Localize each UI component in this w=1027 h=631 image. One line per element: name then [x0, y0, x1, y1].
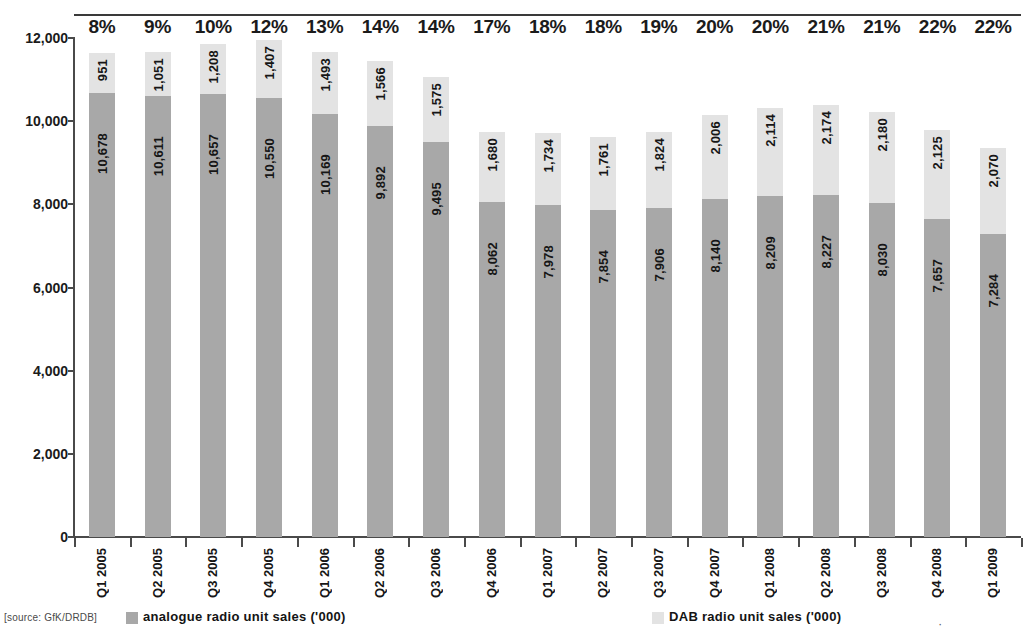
dab-share-label: 12% — [241, 16, 297, 38]
bar-value-label-dab: 1,051 — [151, 58, 164, 92]
bar-value-label-analogue: 9,892 — [374, 166, 387, 200]
bar-group[interactable]: 1,20810,657 — [200, 44, 226, 537]
bar-segment-analogue[interactable]: 8,227 — [813, 195, 839, 537]
bar-value-label-dab: 1,824 — [652, 138, 665, 172]
bar-group[interactable]: 2,0707,284 — [980, 148, 1006, 537]
bar-segment-analogue[interactable]: 7,657 — [924, 219, 950, 537]
bar-segment-dab[interactable]: 1,566 — [367, 61, 393, 126]
bar-segment-dab[interactable]: 951 — [89, 53, 115, 93]
bar-segment-analogue[interactable]: 7,284 — [980, 234, 1006, 537]
x-axis-tick-label: Q3 2007 — [652, 548, 665, 598]
bar-segment-dab[interactable]: 1,051 — [145, 52, 171, 96]
y-axis-tick-label: 12,000 — [25, 30, 68, 46]
legend-swatch-analogue — [126, 612, 138, 624]
bar-value-label-analogue: 8,140 — [708, 239, 721, 273]
bar-segment-dab[interactable]: 2,174 — [813, 105, 839, 195]
bar-segment-dab[interactable]: 1,734 — [535, 133, 561, 205]
x-axis-tick-label: Q3 2008 — [875, 548, 888, 598]
bar-value-label-dab: 1,680 — [485, 138, 498, 172]
bar-segment-dab[interactable]: 1,208 — [200, 44, 226, 94]
bar-segment-dab[interactable]: 2,180 — [869, 112, 895, 203]
x-axis-tick-label: Q3 2005 — [206, 548, 219, 598]
bar-group[interactable]: 1,7347,978 — [535, 133, 561, 537]
chart-footer: [source: GfK/DRDB] analogue radio unit s… — [0, 608, 1027, 631]
bar-segment-analogue[interactable]: 7,854 — [590, 210, 616, 537]
bar-group[interactable]: 1,05110,611 — [145, 52, 171, 537]
x-axis-tick-mark — [408, 538, 410, 547]
bar-group[interactable]: 1,5669,892 — [367, 61, 393, 537]
bar-segment-analogue[interactable]: 9,495 — [423, 142, 449, 537]
bar-group[interactable]: 1,7617,854 — [590, 137, 616, 537]
x-axis-tick-label: Q4 2007 — [708, 548, 721, 598]
bar-segment-analogue[interactable]: 7,906 — [646, 208, 672, 537]
x-axis-tick-label: Q1 2006 — [318, 548, 331, 598]
bar-value-label-dab: 1,575 — [430, 83, 443, 117]
x-axis-tick-mark — [520, 538, 522, 547]
bar-segment-analogue[interactable]: 10,169 — [312, 114, 338, 537]
bar-value-label-analogue: 8,062 — [485, 242, 498, 276]
y-axis-tick-label: 4,000 — [33, 363, 68, 379]
bar-group[interactable]: 1,49310,169 — [312, 52, 338, 537]
x-axis-tick-mark — [575, 538, 577, 547]
dab-share-label: 18% — [575, 16, 631, 38]
bar-segment-analogue[interactable]: 8,030 — [869, 203, 895, 537]
bar-segment-dab[interactable]: 1,407 — [256, 40, 282, 99]
bar-value-label-dab: 951 — [95, 59, 108, 81]
bar-group[interactable]: 2,0068,140 — [702, 115, 728, 537]
x-axis-tick-mark — [353, 538, 355, 547]
bar-group[interactable]: 1,8247,906 — [646, 132, 672, 537]
bar-group[interactable]: 95110,678 — [89, 53, 115, 537]
x-axis-tick-mark — [742, 538, 744, 547]
dab-share-label: 8% — [74, 16, 130, 38]
bar-value-label-dab: 2,174 — [820, 111, 833, 145]
bar-group[interactable]: 1,40710,550 — [256, 40, 282, 537]
bar-group[interactable]: 1,6808,062 — [479, 132, 505, 537]
x-axis-tick-mark — [1021, 538, 1023, 547]
dab-share-label: 19% — [631, 16, 687, 38]
bar-segment-dab[interactable]: 1,680 — [479, 132, 505, 202]
bar-group[interactable]: 2,1148,209 — [757, 108, 783, 537]
bar-segment-analogue[interactable]: 10,678 — [89, 93, 115, 537]
x-axis-tick-label: Q1 2008 — [763, 548, 776, 598]
bar-segment-dab[interactable]: 2,125 — [924, 130, 950, 218]
source-note: [source: GfK/DRDB] — [4, 612, 97, 623]
dab-share-label: 10% — [185, 16, 241, 38]
bar-segment-dab[interactable]: 1,575 — [423, 77, 449, 142]
bar-segment-dab[interactable]: 2,006 — [702, 115, 728, 198]
bar-segment-analogue[interactable]: 10,611 — [145, 96, 171, 537]
bar-segment-analogue[interactable]: 9,892 — [367, 126, 393, 537]
x-axis-tick-mark — [185, 538, 187, 547]
bar-group[interactable]: 2,1808,030 — [869, 112, 895, 537]
bar-segment-dab[interactable]: 2,070 — [980, 148, 1006, 234]
bar-segment-dab[interactable]: 1,824 — [646, 132, 672, 208]
legend-item-analogue: analogue radio unit sales ('000) — [126, 609, 346, 627]
bar-segment-dab[interactable]: 1,493 — [312, 52, 338, 114]
y-axis-tick-label: 2,000 — [33, 446, 68, 462]
bar-value-label-dab: 2,070 — [987, 154, 1000, 188]
dab-share-annotation-row: 8%9%10%12%13%14%14%17%18%18%19%20%20%21%… — [74, 16, 1021, 38]
bar-value-label-analogue: 8,209 — [764, 236, 777, 270]
bar-segment-dab[interactable]: 1,761 — [590, 137, 616, 210]
bar-value-label-analogue: 10,611 — [151, 136, 164, 176]
bar-value-label-analogue: 10,657 — [207, 134, 220, 175]
x-axis-labels: Q1 2005Q2 2005Q3 2005Q4 2005Q1 2006Q2 20… — [74, 548, 1021, 610]
y-axis-tick-label: 6,000 — [33, 280, 68, 296]
bar-segment-analogue[interactable]: 10,657 — [200, 94, 226, 537]
dab-share-label: 21% — [854, 16, 910, 38]
bar-segment-analogue[interactable]: 10,550 — [256, 98, 282, 537]
x-axis-tick-mark — [631, 538, 633, 547]
x-axis-tick-mark — [965, 538, 967, 547]
legend-swatch-dab — [652, 612, 664, 624]
bar-group[interactable]: 2,1748,227 — [813, 105, 839, 538]
y-axis-labels: 02,0004,0006,0008,00010,00012,000 — [0, 0, 68, 631]
bar-segment-analogue[interactable]: 8,140 — [702, 199, 728, 537]
bar-segment-dab[interactable]: 2,114 — [757, 108, 783, 196]
plot-area: 95110,6781,05110,6111,20810,6571,40710,5… — [74, 38, 1021, 537]
x-axis-tick-label: Q2 2007 — [596, 548, 609, 598]
bar-segment-analogue[interactable]: 8,062 — [479, 202, 505, 537]
bar-group[interactable]: 2,1257,657 — [924, 130, 950, 537]
bar-segment-analogue[interactable]: 8,209 — [757, 196, 783, 537]
bar-segment-analogue[interactable]: 7,978 — [535, 205, 561, 537]
legend-extra-marker: · — [938, 616, 942, 631]
bar-group[interactable]: 1,5759,495 — [423, 77, 449, 537]
